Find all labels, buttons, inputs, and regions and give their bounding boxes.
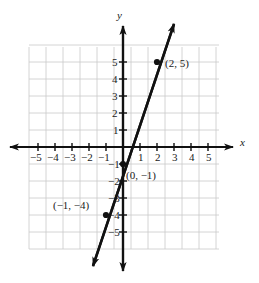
y-tick-label-3: 3: [112, 91, 118, 102]
y-tick-label-1: 1: [113, 125, 119, 136]
point-label-2-5: (2, 5): [165, 58, 189, 69]
graph-canvas: [0, 0, 259, 283]
x-tick-label-5: 5: [206, 152, 212, 163]
point-label-0-neg1: (0, −1): [126, 170, 156, 181]
x-tick-label-2: 2: [155, 152, 161, 163]
x-tick-label-3: 3: [172, 152, 178, 163]
data-point-2-5: [154, 59, 160, 65]
y-tick-label-neg5: −5: [108, 227, 120, 238]
x-tick-label-1: 1: [138, 152, 144, 163]
y-tick-label-2: 2: [112, 108, 118, 119]
y-tick-label-4: 4: [112, 74, 118, 85]
point-label-neg1-neg4: (−1, −4): [53, 200, 89, 211]
y-tick-label-neg4: −4: [108, 210, 120, 221]
x-tick-label-neg5: −5: [30, 152, 42, 163]
y-tick-label-neg1: −1: [108, 159, 120, 170]
x-tick-label-neg4: −4: [47, 152, 59, 163]
x-tick-label-neg2: −2: [81, 152, 93, 163]
y-tick-label-5: 5: [112, 57, 118, 68]
y-tick-label-neg2: −2: [108, 176, 120, 187]
x-axis-label: x: [240, 137, 245, 148]
data-point-0-neg1: [120, 161, 126, 167]
y-tick-label-neg3: −3: [108, 193, 120, 204]
coordinate-plane-figure: −5 −4 −3 −2 −1 1 2 3 4 5 5 4 3 2 1 −1 −2…: [0, 0, 259, 283]
y-axis-label: y: [117, 10, 122, 21]
x-tick-label-4: 4: [189, 152, 195, 163]
x-tick-label-neg3: −3: [64, 152, 76, 163]
plotted-line-reverse: [93, 24, 174, 266]
